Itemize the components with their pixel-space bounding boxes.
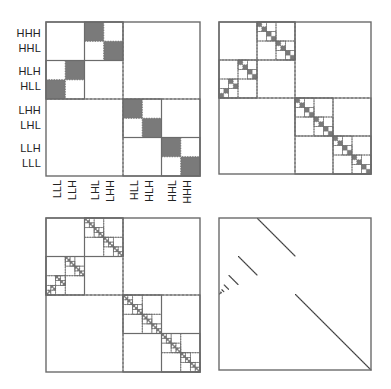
nonzero-entry xyxy=(223,291,224,292)
filled-cell xyxy=(109,242,111,244)
filled-cell xyxy=(152,324,154,326)
filled-cell xyxy=(46,80,65,99)
filled-cell xyxy=(133,305,135,307)
filled-cell xyxy=(186,358,188,360)
filled-cell xyxy=(352,155,357,160)
filled-cell xyxy=(89,223,91,225)
col-label-llh: LLH xyxy=(67,180,78,206)
col-label-hhh: HHH xyxy=(182,180,193,206)
col-label-lhl: LHL xyxy=(90,180,101,206)
filled-cell xyxy=(174,346,176,348)
filled-cell xyxy=(123,99,142,118)
filled-cell xyxy=(262,27,267,32)
filled-cell xyxy=(300,103,305,108)
filled-cell xyxy=(106,240,108,242)
filled-cell xyxy=(281,46,286,51)
filled-cell xyxy=(137,309,139,311)
filled-cell xyxy=(267,32,272,37)
filled-cell xyxy=(58,278,60,280)
filled-cell xyxy=(243,65,248,70)
row-label-hll: HLL xyxy=(1,81,41,92)
filled-cell xyxy=(319,122,324,127)
filled-cell xyxy=(276,41,281,46)
filled-cell xyxy=(51,285,53,287)
filled-cell xyxy=(166,338,168,340)
filled-cell xyxy=(357,160,362,165)
filled-cell xyxy=(140,312,142,314)
filled-cell xyxy=(48,290,50,292)
col-label-lhh: LHH xyxy=(105,180,116,206)
filled-cell xyxy=(118,252,120,254)
filled-cell xyxy=(295,98,300,103)
filled-cell xyxy=(94,228,96,230)
filled-cell xyxy=(233,84,238,89)
filled-cell xyxy=(286,51,291,56)
filled-cell xyxy=(56,276,58,278)
matrix-panel-depth-6 xyxy=(46,218,200,372)
filled-cell xyxy=(85,22,104,41)
filled-cell xyxy=(290,55,295,60)
matrix-panel-depth-5 xyxy=(219,22,371,174)
filled-cell xyxy=(75,266,77,268)
filled-cell xyxy=(87,220,89,222)
filled-cell xyxy=(305,108,310,113)
filled-cell xyxy=(72,264,74,266)
filled-cell xyxy=(309,112,314,117)
nonzero-entry xyxy=(256,274,257,275)
col-label-hhl: HHL xyxy=(167,180,178,206)
filled-cell xyxy=(113,247,115,249)
filled-cell xyxy=(142,118,161,137)
filled-cell xyxy=(181,157,200,176)
filled-cell xyxy=(343,146,348,151)
filled-cell xyxy=(99,232,101,234)
filled-cell xyxy=(116,249,118,251)
filled-cell xyxy=(193,365,195,367)
filled-cell xyxy=(162,138,181,157)
filled-cell xyxy=(130,302,132,304)
filled-cell xyxy=(169,341,171,343)
matrix-panel-depth-8 xyxy=(219,218,371,370)
filled-cell xyxy=(65,61,84,80)
filled-cell xyxy=(104,41,123,60)
filled-cell xyxy=(142,314,144,316)
matrix-panel-depth-3 xyxy=(46,22,200,176)
filled-cell xyxy=(70,261,72,263)
row-label-lhh: LHH xyxy=(1,105,41,116)
row-label-llh: LLH xyxy=(1,143,41,154)
filled-cell xyxy=(333,136,338,141)
row-label-lll: LLL xyxy=(1,158,41,169)
filled-cell xyxy=(63,283,65,285)
filled-cell xyxy=(252,74,257,79)
filled-cell xyxy=(248,70,253,75)
filled-cell xyxy=(314,117,319,122)
filled-cell xyxy=(183,355,185,357)
filled-cell xyxy=(154,326,156,328)
filled-cell xyxy=(178,350,180,352)
filled-cell xyxy=(229,79,234,84)
filled-cell xyxy=(60,281,62,283)
filled-cell xyxy=(362,165,367,170)
filled-cell xyxy=(97,230,99,232)
filled-cell xyxy=(157,329,159,331)
filled-cell xyxy=(347,150,352,155)
row-label-hlh: HLH xyxy=(1,66,41,77)
filled-cell xyxy=(338,141,343,146)
filled-cell xyxy=(125,297,127,299)
filled-cell xyxy=(190,362,192,364)
filled-cell xyxy=(171,343,173,345)
row-label-hhl: HHL xyxy=(1,43,41,54)
filled-cell xyxy=(164,336,166,338)
filled-cell xyxy=(224,89,229,94)
filled-cell xyxy=(257,22,262,27)
filled-cell xyxy=(147,319,149,321)
filled-cell xyxy=(145,317,147,319)
col-label-hlh: HLH xyxy=(144,180,155,206)
filled-cell xyxy=(271,36,276,41)
filled-cell xyxy=(188,360,190,362)
filled-cell xyxy=(80,271,82,273)
filled-cell xyxy=(181,353,183,355)
filled-cell xyxy=(53,288,55,290)
row-label-hhh: HHH xyxy=(1,28,41,39)
filled-cell xyxy=(195,367,197,369)
filled-cell xyxy=(104,237,106,239)
